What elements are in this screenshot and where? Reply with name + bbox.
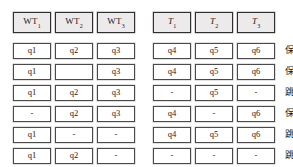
row-2-group-wt: q1 q3 (13, 64, 139, 80)
row-5-group-t: q4 q5 q6 (153, 127, 279, 143)
header-t-2-sub: 2 (215, 23, 218, 29)
table-row: q1 q2 q3 - q5 - 跳过 (0, 82, 293, 103)
row-3-cell-t-2: q5 (195, 85, 233, 101)
header-group-t: T1 T2 T3 (153, 12, 279, 33)
table-row: q1 q2 - - - - 跳过 (0, 145, 293, 166)
header-wt-2-base: WT (65, 16, 79, 26)
header-group-wt: WT1 WT2 WT3 (13, 12, 139, 33)
row-1-group-wt: q1 q2 q3 (13, 43, 139, 59)
row-2-cell-t-2: q5 (195, 64, 233, 80)
table-grid: WT1 WT2 WT3 T1 T2 T3 (0, 0, 293, 167)
table-row: q1 q3 q4 q5 q6 保存 (0, 61, 293, 82)
row-1-cell-t-1: q4 (153, 43, 191, 59)
header-cell-wt-1: WT1 (13, 12, 51, 33)
row-6-cell-wt-1: q1 (13, 148, 51, 164)
row-2-cell-t-3: q6 (237, 64, 275, 80)
row-3-cell-t-1: - (153, 85, 191, 101)
table-header-row: WT1 WT2 WT3 T1 T2 T3 (0, 9, 293, 35)
row-4-cell-t-2: - (195, 106, 233, 122)
header-wt-3-base: WT (107, 16, 121, 26)
row-3-cell-wt-1: q1 (13, 85, 51, 101)
header-cell-wt-3: WT3 (97, 12, 135, 33)
header-cell-t-3: T3 (237, 12, 275, 33)
header-wt-1-base: WT (23, 16, 37, 26)
header-wt-2-sub: 2 (80, 23, 83, 29)
row-1-cell-t-3: q6 (237, 43, 275, 59)
header-wt-3-sub: 3 (122, 23, 125, 29)
row-6-status-label: 跳过 (285, 151, 293, 161)
row-5-cell-t-3: q6 (237, 127, 275, 143)
row-5-cell-wt-2: - (55, 127, 93, 143)
row-6-cell-t-3: - (237, 148, 275, 164)
row-5-cell-wt-1: q1 (13, 127, 51, 143)
row-3-group-t: - q5 - (153, 85, 279, 101)
row-6-group-t: - - - (153, 148, 279, 164)
transition-table-figure: WT1 WT2 WT3 T1 T2 T3 (0, 0, 293, 167)
row-2-status-label: 保存 (285, 67, 293, 77)
header-cell-t-2: T2 (195, 12, 233, 33)
row-4-cell-t-3: q6 (237, 106, 275, 122)
table-row: - q2 q3 q4 - q6 保存 (0, 103, 293, 124)
row-1-cell-wt-1: q1 (13, 43, 51, 59)
row-2-cell-t-1: q4 (153, 64, 191, 80)
row-2-cell-wt-2 (55, 64, 93, 80)
row-6-cell-t-2: - (195, 148, 233, 164)
row-5-status-label: 跳过 (285, 130, 293, 140)
header-cell-t-1: T1 (153, 12, 191, 33)
row-5-cell-t-1: q4 (153, 127, 191, 143)
row-2-cell-wt-3: q3 (97, 64, 135, 80)
table-row: q1 q2 q3 q4 q5 q6 保存 (0, 40, 293, 61)
row-4-group-wt: - q2 q3 (13, 106, 139, 122)
header-t-3-sub: 3 (257, 23, 260, 29)
header-wt-1-sub: 1 (38, 23, 41, 29)
row-4-cell-wt-2: q2 (55, 106, 93, 122)
row-4-cell-wt-1: - (13, 106, 51, 122)
row-3-status-label: 跳过 (285, 88, 293, 98)
row-2-cell-wt-1: q1 (13, 64, 51, 80)
header-cell-wt-2: WT2 (55, 12, 93, 33)
row-4-cell-wt-3: q3 (97, 106, 135, 122)
row-1-group-t: q4 q5 q6 (153, 43, 279, 59)
row-6-cell-t-1: - (153, 148, 191, 164)
row-4-status-label: 保存 (285, 109, 293, 119)
row-3-cell-wt-2: q2 (55, 85, 93, 101)
row-6-group-wt: q1 q2 - (13, 148, 139, 164)
row-1-status-label: 保存 (285, 46, 293, 56)
row-5-group-wt: q1 - - (13, 127, 139, 143)
row-3-cell-wt-3: q3 (97, 85, 135, 101)
row-6-cell-wt-2: q2 (55, 148, 93, 164)
row-5-cell-wt-3: - (97, 127, 135, 143)
row-4-cell-t-1: q4 (153, 106, 191, 122)
table-row: q1 - - q4 q5 q6 跳过 (0, 124, 293, 145)
row-6-cell-wt-3: - (97, 148, 135, 164)
row-3-group-wt: q1 q2 q3 (13, 85, 139, 101)
row-5-cell-t-2: q5 (195, 127, 233, 143)
row-1-cell-wt-3: q3 (97, 43, 135, 59)
row-2-group-t: q4 q5 q6 (153, 64, 279, 80)
row-1-cell-wt-2: q2 (55, 43, 93, 59)
header-t-1-sub: 1 (173, 23, 176, 29)
row-3-cell-t-3: - (237, 85, 275, 101)
row-1-cell-t-2: q5 (195, 43, 233, 59)
row-4-group-t: q4 - q6 (153, 106, 279, 122)
